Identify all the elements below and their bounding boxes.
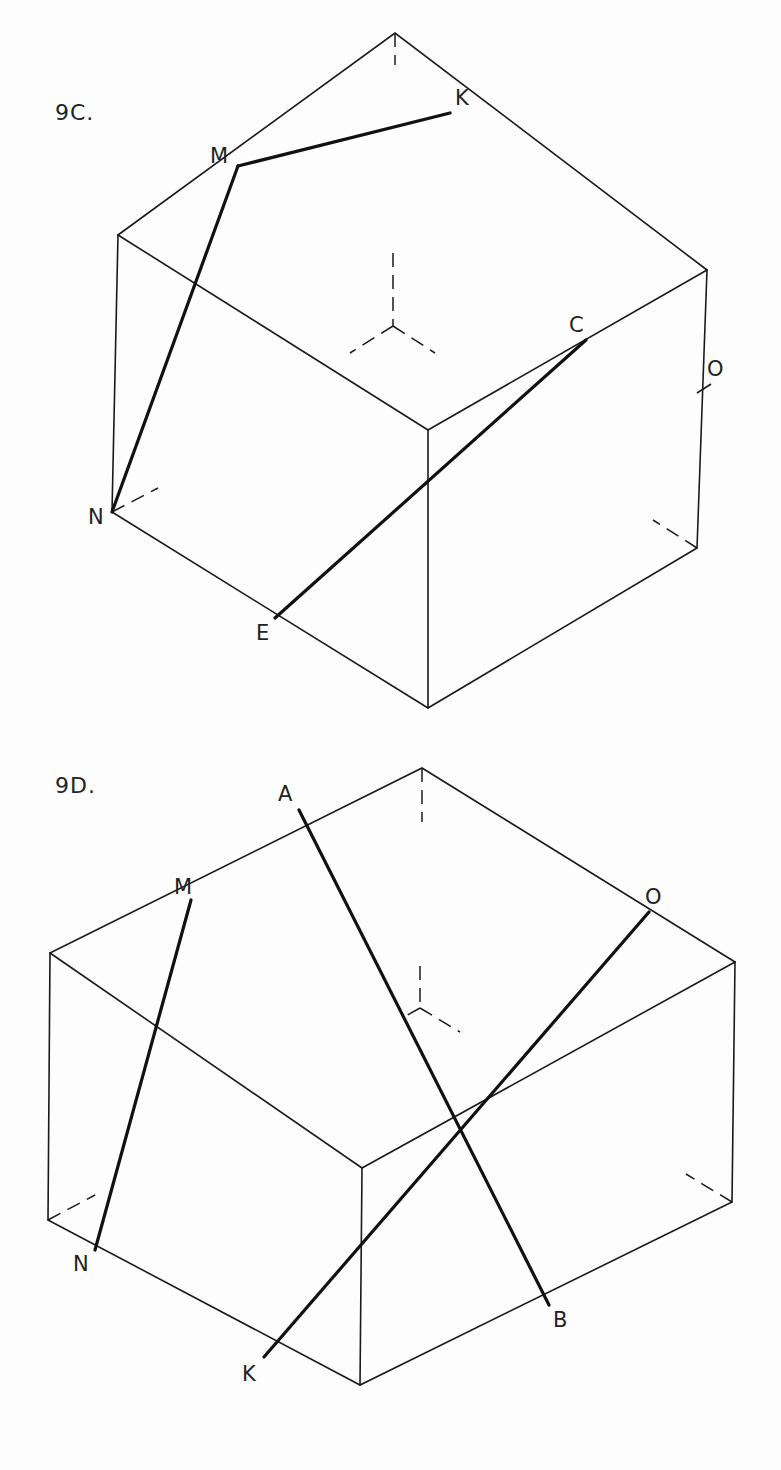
point-label-a: A [278,784,292,805]
point-label-c: C [569,315,584,336]
hidden-edge [653,520,697,548]
edge [112,512,697,708]
section-line-ec [275,340,586,618]
tick-mark [697,384,711,393]
point-label-n: N [73,1254,89,1275]
point-label-m: M [210,146,228,167]
point-label-m: M [174,877,192,898]
edge [697,270,707,548]
edge [48,1202,732,1385]
point-label-o: O [707,359,724,380]
hidden-edge [350,326,393,353]
hidden-edge [48,1195,95,1220]
point-label-k: K [455,88,469,109]
point-label-b: B [553,1310,567,1331]
isometric-drawings [0,0,781,1470]
section-line-mk [238,113,450,166]
textbook-page: 9C. K M C O N E 9D. A M O N K B [0,0,781,1470]
figure-9d-solid [48,768,735,1385]
point-label-k: K [242,1364,256,1385]
point-label-o: O [645,887,662,908]
point-label-n: N [88,507,104,528]
edge [48,953,50,1220]
edge [118,33,707,270]
edge [360,1168,362,1385]
figure-9c-solid [112,33,711,708]
section-line-ko [264,912,649,1357]
hidden-edge [420,1008,460,1032]
hidden-edge [393,326,435,353]
edge [50,953,735,1168]
edge [732,962,735,1202]
section-line-mn [95,900,191,1250]
figure-title-9c: 9C. [55,100,94,125]
point-label-e: E [256,623,269,644]
section-line-mn [112,166,238,512]
hidden-edge [686,1174,732,1202]
edge [112,235,118,512]
section-line-ab [299,810,549,1305]
figure-title-9d: 9D. [55,773,96,798]
edge [118,235,707,430]
